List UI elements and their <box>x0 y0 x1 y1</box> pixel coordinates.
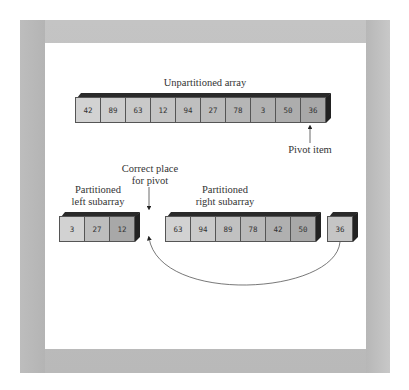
arrows-layer <box>0 0 409 390</box>
pivot-move-curve <box>149 238 340 285</box>
